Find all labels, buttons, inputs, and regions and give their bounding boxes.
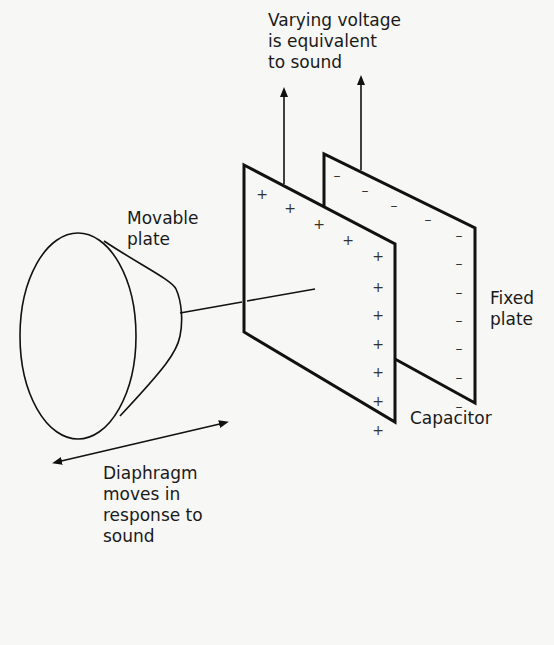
capacitor-label: Capacitor: [410, 408, 492, 428]
minus-charge: –: [456, 255, 463, 271]
output-label-line-2: is equivalent: [268, 31, 377, 51]
minus-charge: –: [362, 182, 369, 198]
diaphragm-cone-side: [104, 241, 182, 416]
motion-double-arrow: [57, 423, 224, 462]
fixed-plate-label: Fixed plate: [490, 288, 539, 329]
diaphragm-ellipse: [20, 233, 136, 439]
output-label: Varying voltage is equivalent to sound: [268, 10, 406, 72]
diaphragm-label: Diaphragm moves in response to sound: [103, 463, 208, 546]
minus-charge: –: [456, 312, 463, 328]
minus-charge: –: [334, 167, 341, 183]
plus-charge: +: [372, 248, 384, 264]
microphone-diagram: +++++++++++ ––––––––––– Varying voltage …: [0, 0, 554, 645]
movable-plate-label: Movable plate: [127, 208, 204, 249]
fixed-plate-label-line-2: plate: [490, 309, 533, 329]
plus-charge: +: [256, 186, 268, 202]
movable-plate-label-line-2: plate: [127, 229, 170, 249]
plus-charge: +: [372, 364, 384, 380]
plus-charge: +: [284, 200, 296, 216]
plus-charge: +: [372, 422, 384, 438]
output-label-line-3: to sound: [268, 52, 342, 72]
plus-charge: +: [342, 232, 354, 248]
diaphragm-label-line-1: Diaphragm: [103, 463, 198, 483]
minus-charge: –: [425, 211, 432, 227]
plus-charge: +: [372, 393, 384, 409]
diaphragm-label-line-2: moves in: [103, 484, 180, 504]
minus-charge: –: [456, 227, 463, 243]
plus-charge: +: [372, 279, 384, 295]
minus-charge: –: [456, 340, 463, 356]
minus-charge: –: [456, 284, 463, 300]
plus-charge: +: [313, 216, 325, 232]
diaphragm-label-line-4: sound: [103, 526, 155, 546]
plus-charge: +: [372, 307, 384, 323]
movable-plate-label-line-1: Movable: [127, 208, 199, 228]
minus-charge: –: [456, 369, 463, 385]
connecting-rod: [180, 302, 242, 313]
output-label-line-1: Varying voltage: [268, 10, 401, 30]
diaphragm-label-line-3: response to: [103, 505, 203, 525]
plus-charge: +: [372, 336, 384, 352]
minus-charge: –: [391, 197, 398, 213]
fixed-plate-label-line-1: Fixed: [490, 288, 534, 308]
